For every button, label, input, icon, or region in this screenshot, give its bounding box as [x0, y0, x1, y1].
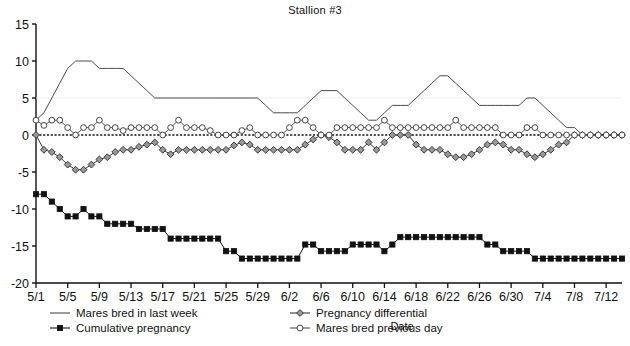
data-point-marker — [254, 146, 261, 153]
y-tick-label: 15 — [15, 18, 29, 32]
data-point-marker — [41, 146, 48, 153]
data-point-marker — [572, 132, 578, 138]
legend-item-pregnancy-differential[interactable]: Pregnancy differential — [290, 307, 427, 319]
data-point-marker — [556, 132, 562, 138]
data-point-marker — [358, 242, 363, 247]
data-point-marker — [508, 146, 515, 153]
data-point-marker — [279, 132, 285, 138]
data-point-marker — [279, 256, 284, 261]
data-point-marker — [33, 192, 38, 197]
data-point-marker — [302, 141, 309, 148]
chart-legend: Mares bred in last weekCumulative pregna… — [50, 307, 443, 334]
data-point-marker — [239, 128, 245, 134]
data-point-marker — [389, 125, 395, 131]
data-point-marker — [421, 146, 428, 153]
data-point-marker — [398, 235, 403, 240]
data-point-marker — [176, 117, 182, 123]
data-point-marker — [120, 128, 126, 134]
data-point-marker — [128, 125, 134, 131]
x-tick-label: 6/14 — [372, 290, 396, 304]
data-point-marker — [57, 206, 62, 211]
data-point-marker — [413, 125, 419, 131]
data-point-marker — [246, 141, 253, 148]
data-point-marker — [287, 125, 293, 131]
legend-item-mares-bred-in-last-week[interactable]: Mares bred in last week — [50, 307, 198, 319]
data-point-marker — [524, 249, 529, 254]
data-point-marker — [580, 256, 585, 261]
data-point-marker — [271, 132, 277, 138]
data-point-marker — [136, 143, 143, 150]
series-cumulative-pregnancy — [33, 192, 624, 262]
data-point-marker — [414, 235, 419, 240]
data-point-marker — [65, 214, 70, 219]
data-point-marker — [469, 235, 474, 240]
data-point-marker — [524, 125, 530, 131]
data-point-marker — [564, 132, 570, 138]
data-point-marker — [588, 256, 593, 261]
data-point-marker — [445, 125, 451, 131]
data-point-marker — [231, 132, 237, 138]
x-tick-label: 6/2 — [281, 290, 298, 304]
x-tick-label: 6/26 — [467, 290, 491, 304]
chart-container: Stallion #3 151050-5-10-15-20 5/15/55/95… — [0, 0, 630, 346]
data-point-marker — [595, 132, 601, 138]
data-point-marker — [73, 132, 79, 138]
data-point-marker — [160, 226, 165, 231]
data-point-marker — [437, 125, 443, 131]
data-point-marker — [326, 132, 332, 138]
data-point-marker — [492, 139, 499, 146]
x-axis: 5/15/55/95/135/175/215/255/296/26/66/106… — [27, 283, 622, 304]
legend-item-cumulative-pregnancy[interactable]: Cumulative pregnancy — [50, 322, 191, 334]
data-point-marker — [215, 132, 221, 138]
x-tick-label: 5/9 — [91, 290, 108, 304]
data-point-marker — [492, 125, 498, 131]
x-tick-label: 6/6 — [312, 290, 329, 304]
data-point-marker — [500, 141, 507, 148]
data-point-marker — [493, 242, 498, 247]
data-point-marker — [105, 221, 110, 226]
x-tick-label: 5/29 — [246, 290, 270, 304]
data-point-marker — [310, 136, 317, 143]
data-point-marker — [453, 117, 459, 123]
data-point-marker — [113, 221, 118, 226]
x-tick-label: 6/22 — [436, 290, 460, 304]
y-tick-label: 10 — [15, 55, 29, 69]
data-point-marker — [255, 256, 260, 261]
data-point-marker — [81, 125, 87, 131]
data-point-marker — [547, 146, 554, 153]
data-point-marker — [460, 154, 467, 161]
data-point-marker — [302, 117, 308, 123]
data-point-marker — [596, 256, 601, 261]
data-point-marker — [366, 242, 371, 247]
data-point-marker — [501, 249, 506, 254]
data-point-marker — [405, 125, 411, 131]
data-point-marker — [48, 149, 55, 156]
data-point-marker — [287, 256, 292, 261]
data-point-marker — [603, 132, 609, 138]
y-tick-label: -5 — [18, 166, 29, 180]
data-point-marker — [508, 132, 514, 138]
data-point-marker — [604, 256, 609, 261]
data-point-marker — [421, 125, 427, 131]
x-tick-label: 7/8 — [566, 290, 583, 304]
data-point-marker — [294, 146, 301, 153]
x-tick-label: 6/18 — [404, 290, 428, 304]
legend-label: Cumulative pregnancy — [76, 322, 191, 334]
data-point-marker — [216, 236, 221, 241]
data-point-marker — [382, 249, 387, 254]
data-point-marker — [80, 166, 87, 173]
data-point-marker — [215, 146, 222, 153]
legend-item-mares-bred-previous-day[interactable]: Mares bred previous day — [290, 322, 443, 334]
data-point-marker — [208, 236, 213, 241]
x-tick-label: 5/5 — [59, 290, 76, 304]
data-point-marker — [262, 146, 269, 153]
data-point-marker — [334, 125, 340, 131]
data-point-marker — [397, 125, 403, 131]
data-point-marker — [436, 146, 443, 153]
data-point-marker — [397, 132, 404, 139]
series-mares-bred-previous-day — [33, 117, 625, 138]
data-point-marker — [247, 125, 253, 131]
data-point-marker — [580, 132, 586, 138]
legend-marker-open-circle — [297, 325, 303, 331]
data-point-marker — [349, 146, 356, 153]
